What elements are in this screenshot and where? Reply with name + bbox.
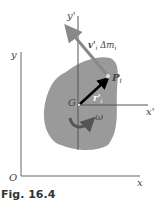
origin-label: O: [9, 172, 17, 183]
x-prime-label: x': [146, 106, 154, 117]
rigid-body-diagram: y x O y' x' G Pi v'i Δmi r'i ω Fig. 16.4: [0, 0, 165, 200]
x-axis-label: x: [137, 177, 143, 188]
y-axis-label: y: [10, 49, 17, 60]
y-prime-label: y': [66, 10, 75, 21]
velocity-label: v'i Δmi: [88, 40, 116, 51]
center-g: [78, 104, 81, 107]
omega-label: ω: [95, 111, 103, 122]
figure-caption: Fig. 16.4: [1, 188, 56, 200]
g-label: G: [68, 97, 76, 108]
point-p: [106, 74, 111, 79]
